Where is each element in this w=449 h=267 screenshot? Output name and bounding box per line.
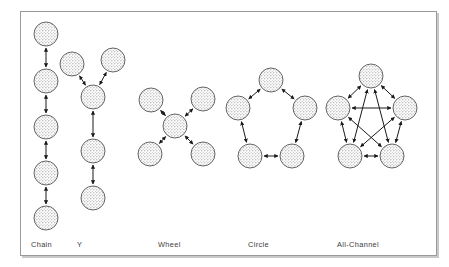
edge-all-channel-a1-a4	[354, 90, 368, 143]
node-circle	[81, 85, 105, 109]
edge-y-y2-y3	[100, 72, 107, 84]
node-circle-r1	[259, 68, 283, 92]
edge-wheel-w0-w3	[159, 136, 165, 143]
edge-wheel-w0-w1	[161, 110, 166, 115]
node-chain-c3	[34, 115, 58, 139]
node-y-y5	[81, 186, 105, 210]
node-circle	[34, 69, 58, 93]
node-chain-c4	[34, 161, 58, 185]
node-y-y4	[81, 139, 105, 163]
edge-circle-r1-r3	[282, 89, 294, 99]
edge-all-channel-a1-a5	[375, 90, 389, 143]
node-circle	[163, 114, 187, 138]
pattern-label-circle: Circle	[248, 240, 269, 249]
edge-circle-r1-r2	[249, 89, 261, 99]
node-all-channel-a1	[359, 64, 383, 88]
node-y-y1	[60, 52, 84, 76]
node-circle	[138, 142, 162, 166]
edge-wheel-w0-w2	[185, 109, 193, 117]
node-all-channel-a2	[326, 96, 350, 120]
edge-circle-r3-r5	[296, 122, 302, 143]
node-wheel-w0	[163, 114, 187, 138]
node-circle	[226, 96, 250, 120]
node-circle	[238, 144, 262, 168]
node-circle	[293, 96, 317, 120]
node-y-y2	[101, 48, 125, 72]
edge-y-y1-y3	[80, 76, 86, 85]
edge-all-channel-a1-a2	[348, 86, 361, 99]
node-circle	[34, 161, 58, 185]
node-circle-r4	[238, 144, 262, 168]
node-circle	[338, 144, 362, 168]
pattern-label-chain: Chain	[31, 240, 52, 249]
node-wheel-w2	[191, 87, 215, 111]
node-chain-c2	[34, 69, 58, 93]
node-circle	[191, 142, 215, 166]
node-wheel-w4	[191, 142, 215, 166]
pattern-label-y: Y	[77, 240, 82, 249]
node-circle	[139, 88, 163, 112]
edge-wheel-w0-w4	[185, 136, 193, 144]
node-circle	[380, 144, 404, 168]
node-circle-r5	[280, 144, 304, 168]
node-y-y3	[81, 85, 105, 109]
network-patterns-diagram	[0, 0, 449, 267]
node-chain-c5	[34, 206, 58, 230]
node-wheel-w3	[138, 142, 162, 166]
edge-all-channel-a3-a5	[396, 122, 402, 143]
node-circle-r2	[226, 96, 250, 120]
edge-all-channel-a1-a3	[381, 86, 395, 99]
node-all-channel-a3	[393, 96, 417, 120]
pattern-label-all-channel: All-Channel	[337, 240, 379, 249]
node-all-channel-a4	[338, 144, 362, 168]
pattern-label-wheel: Wheel	[158, 240, 181, 249]
edge-all-channel-a2-a4	[341, 122, 346, 143]
node-circle	[81, 186, 105, 210]
edge-circle-r2-r4	[241, 122, 246, 143]
node-chain-c1	[34, 22, 58, 46]
node-circle	[259, 68, 283, 92]
node-circle	[393, 96, 417, 120]
node-wheel-w1	[139, 88, 163, 112]
node-circle	[359, 64, 383, 88]
node-circle-r3	[293, 96, 317, 120]
node-circle	[101, 48, 125, 72]
figure-root: ChainYWheelCircleAll-Channel	[0, 0, 449, 267]
node-circle	[60, 52, 84, 76]
node-circle	[326, 96, 350, 120]
node-circle	[81, 139, 105, 163]
node-all-channel-a5	[380, 144, 404, 168]
edges-layer	[46, 48, 401, 204]
node-circle	[34, 206, 58, 230]
node-circle	[280, 144, 304, 168]
node-circle	[34, 115, 58, 139]
node-circle	[34, 22, 58, 46]
node-circle	[191, 87, 215, 111]
nodes-layer	[34, 22, 417, 230]
